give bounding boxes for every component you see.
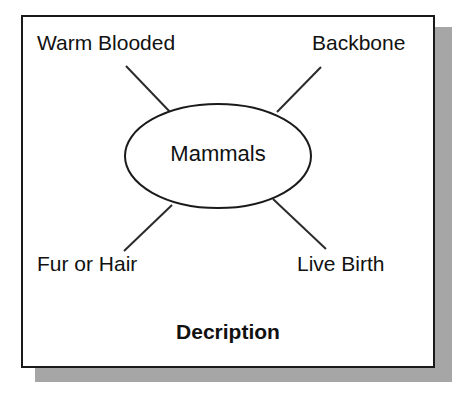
node-label-fur-or-hair: Fur or Hair — [37, 253, 137, 274]
center-node-label: Mammals — [125, 143, 311, 165]
diagram-footer-title: Decription — [21, 321, 435, 342]
node-label-backbone: Backbone — [312, 32, 405, 53]
diagram-canvas: Warm Blooded Backbone Fur or Hair Live B… — [0, 0, 467, 402]
diagram-card — [21, 15, 435, 368]
node-label-warm-blooded: Warm Blooded — [37, 32, 175, 53]
node-label-live-birth: Live Birth — [297, 253, 385, 274]
